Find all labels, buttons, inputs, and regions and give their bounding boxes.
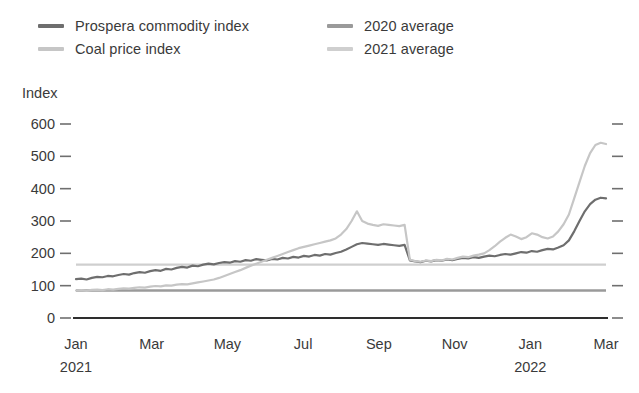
x-tick-label: Nov — [442, 336, 469, 352]
x-tick-label: Jan — [519, 336, 542, 352]
plot-area: 0100200300400500600Jan2021MarMayJulSepNo… — [0, 0, 639, 393]
x-tick-label: May — [214, 336, 242, 352]
x-tick-label: Sep — [366, 336, 392, 352]
y-tick-label: 300 — [31, 213, 55, 229]
x-tick-year-label: 2022 — [514, 359, 546, 375]
y-tick-label: 600 — [31, 116, 55, 132]
x-tick-year-label: 2021 — [60, 359, 92, 375]
y-tick-label: 0 — [47, 310, 55, 326]
series-line-prospera-commodity-index — [76, 198, 606, 280]
y-tick-label: 200 — [31, 245, 55, 261]
commodity-index-chart: Prospera commodity index Coal price inde… — [0, 0, 639, 393]
x-tick-label: Jan — [64, 336, 87, 352]
y-tick-label: 500 — [31, 148, 55, 164]
x-tick-label: Jul — [294, 336, 313, 352]
y-tick-label: 400 — [31, 181, 55, 197]
y-tick-label: 100 — [31, 278, 55, 294]
x-tick-label: Mar — [139, 336, 164, 352]
x-tick-label: Mar — [594, 336, 619, 352]
series-line-coal-price-index — [76, 143, 606, 291]
